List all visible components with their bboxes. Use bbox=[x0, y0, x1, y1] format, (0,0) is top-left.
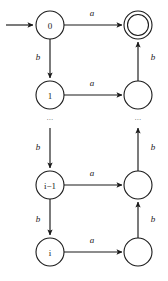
edge-label-a-row1: a bbox=[90, 78, 95, 88]
state-label-i-minus-1: i−1 bbox=[44, 181, 56, 191]
state-label-1: 1 bbox=[48, 91, 53, 101]
transition-a-row2: a bbox=[64, 168, 122, 185]
transition-b-left-i1-to-i: b bbox=[36, 199, 50, 235]
state-node-i-minus-1[interactable]: i−1 bbox=[36, 171, 64, 199]
transition-b-right-1-to-accept: b bbox=[138, 42, 156, 81]
transition-a-row0: a bbox=[64, 8, 122, 25]
edge-label-b-left-row0: b bbox=[36, 52, 41, 62]
ellipsis-left: ... bbox=[47, 114, 54, 122]
state-node-i[interactable]: i bbox=[36, 238, 64, 266]
edge-label-a-row3: a bbox=[90, 235, 95, 245]
transition-a-row1: a bbox=[64, 78, 122, 95]
transition-b-left-dots-to-i1: b bbox=[36, 128, 50, 168]
automaton-diagram: a a a a b b b bbox=[0, 0, 168, 281]
edge-label-b-right-row1: b bbox=[151, 52, 156, 62]
edge-label-b-right-row2: b bbox=[151, 142, 156, 152]
state-node-right-row3[interactable] bbox=[124, 238, 152, 266]
ellipsis-right: ... bbox=[135, 114, 142, 122]
transition-b-right-i1-to-dots: b bbox=[138, 128, 156, 171]
state-node-right-row2[interactable] bbox=[124, 171, 152, 199]
transition-b-left-0-to-1: b bbox=[36, 39, 50, 78]
state-node-right-row1[interactable] bbox=[124, 81, 152, 109]
transition-b-right-i-to-i1: b bbox=[138, 202, 156, 238]
automaton-canvas: a a a a b b b bbox=[0, 0, 168, 281]
state-node-accepting[interactable] bbox=[124, 11, 152, 39]
edge-label-b-left-row3: b bbox=[36, 214, 41, 224]
edge-label-b-left-row2: b bbox=[36, 142, 41, 152]
edge-label-a-row2: a bbox=[90, 168, 95, 178]
edge-label-b-right-row3: b bbox=[151, 214, 156, 224]
state-node-1[interactable]: 1 bbox=[36, 81, 64, 109]
edge-label-a-row0: a bbox=[90, 8, 95, 18]
state-label-0: 0 bbox=[48, 21, 53, 31]
state-node-0[interactable]: 0 bbox=[36, 11, 64, 39]
transition-a-row3: a bbox=[64, 235, 122, 252]
